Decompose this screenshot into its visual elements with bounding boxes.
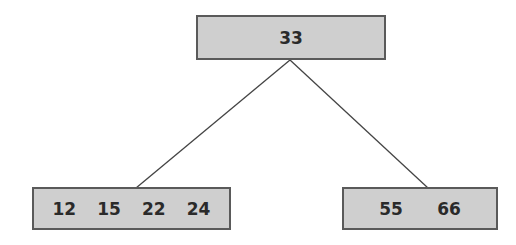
node-key: 24 [179,199,219,219]
root-node: 33 [196,15,386,60]
edge-root-to-right [290,60,428,188]
right-child-node: 55 66 [342,187,498,230]
node-key: 15 [89,199,129,219]
node-key: 12 [44,199,84,219]
node-key: 33 [279,28,303,48]
node-key: 22 [134,199,174,219]
node-key: 66 [424,199,474,219]
node-key: 55 [366,199,416,219]
left-child-node: 12 15 22 24 [32,187,231,230]
edge-root-to-left [136,60,290,188]
